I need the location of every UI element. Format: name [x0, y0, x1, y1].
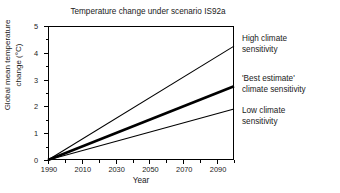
annotation-low-line-2: sensitivity — [242, 117, 285, 128]
x-tick-2090: 2090 — [217, 160, 218, 164]
x-tick-2010: 2010 — [82, 160, 83, 164]
annotation-high-climate-sensitivity: High climate sensitivity — [242, 34, 287, 55]
x-tick-label-2050: 2050 — [142, 166, 158, 174]
x-tick-label-2010: 2010 — [75, 166, 91, 174]
x-tick-2070: 2070 — [183, 160, 184, 164]
annotation-high-line-1: High climate — [242, 34, 287, 45]
x-tick-2050: 2050 — [149, 160, 150, 164]
x-minor-tick — [133, 160, 134, 163]
x-minor-tick — [99, 160, 100, 163]
plot-area: 012345 199020102030205020702090 — [48, 26, 234, 160]
y-tick-label-2: 2 — [34, 104, 38, 111]
series-line-high-climate-sensitivity — [48, 46, 234, 160]
y-axis-title-line-2: change (°C) — [14, 5, 25, 125]
chart-title: Temperature change under scenario IS92a — [48, 7, 248, 17]
x-minor-tick — [166, 160, 167, 163]
y-tick-label-5: 5 — [34, 23, 38, 30]
x-tick-label-2090: 2090 — [210, 166, 226, 174]
x-tick-label-1990: 1990 — [41, 166, 57, 174]
x-tick-label-2070: 2070 — [176, 166, 192, 174]
y-axis-title-line-1: Global mean temperature — [3, 5, 14, 125]
annotation-low-line-1: Low climate — [242, 106, 285, 117]
series-line-best-estimate-climate-sensitivity — [48, 86, 234, 160]
annotation-best-estimate-climate-sensitivity: 'Best estimate' climate sensitivity — [242, 74, 306, 95]
y-axis-title: Global mean temperature change (°C) — [3, 5, 29, 125]
x-minor-tick — [65, 160, 66, 163]
y-tick-label-0: 0 — [34, 157, 38, 164]
x-minor-tick — [200, 160, 201, 163]
x-tick-2030: 2030 — [116, 160, 117, 164]
series-lines — [48, 26, 234, 160]
x-tick-label-2030: 2030 — [108, 166, 124, 174]
annotation-best-line-1: 'Best estimate' — [242, 74, 306, 85]
chart-figure: Temperature change under scenario IS92a … — [0, 0, 340, 193]
x-axis-title: Year — [48, 176, 234, 185]
y-tick-label-3: 3 — [34, 77, 38, 84]
series-line-low-climate-sensitivity — [48, 109, 234, 160]
annotation-low-climate-sensitivity: Low climate sensitivity — [242, 106, 285, 127]
y-tick-label-1: 1 — [34, 130, 38, 137]
y-tick-label-4: 4 — [34, 50, 38, 57]
x-minor-tick — [234, 160, 235, 163]
annotation-high-line-2: sensitivity — [242, 45, 287, 56]
annotation-best-line-2: climate sensitivity — [242, 85, 306, 96]
